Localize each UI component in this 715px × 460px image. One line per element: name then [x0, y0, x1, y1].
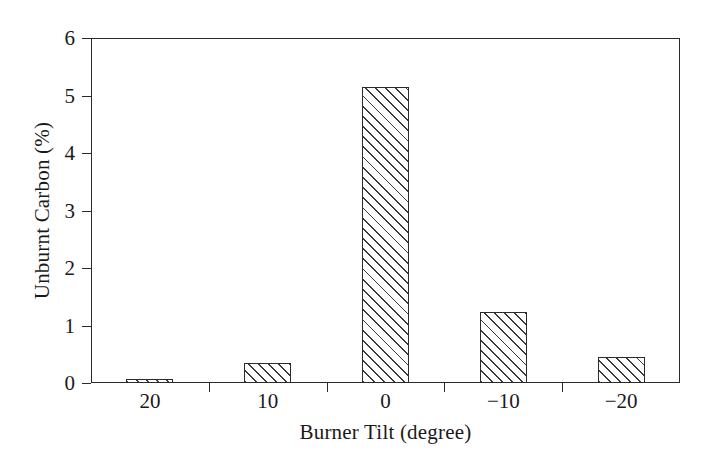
y-tick-label-0: 0	[15, 373, 75, 394]
y-tick-label-6: 6	[15, 28, 75, 49]
x-tick-label-minus-10: −10	[458, 391, 548, 412]
bar-20	[126, 379, 173, 383]
x-tick-3	[444, 383, 445, 392]
x-tick-label-minus-20: −20	[576, 391, 666, 412]
y-tick-4	[82, 153, 91, 154]
bar-0	[362, 87, 409, 383]
chart-figure: Unburnt Carbon (%) 0 1 2 3 4 5 6 20 10 0…	[0, 0, 715, 460]
y-tick-5	[82, 96, 91, 97]
bar-minus-20	[598, 357, 645, 383]
x-tick-4	[562, 383, 563, 392]
bar-10	[244, 363, 291, 383]
y-tick-1	[82, 326, 91, 327]
x-tick-2	[327, 383, 328, 392]
y-tick-0	[82, 383, 91, 384]
x-tick-label-0: 0	[341, 391, 431, 412]
y-tick-label-3: 3	[15, 201, 75, 222]
y-tick-label-1: 1	[15, 316, 75, 337]
y-tick-label-2: 2	[15, 258, 75, 279]
x-tick-label-10: 10	[223, 391, 313, 412]
x-tick-1	[209, 383, 210, 392]
bar-minus-10	[480, 312, 527, 383]
x-tick-label-20: 20	[105, 391, 195, 412]
x-axis-title: Burner Tilt (degree)	[91, 420, 680, 445]
y-tick-6	[82, 38, 91, 39]
y-tick-label-5: 5	[15, 86, 75, 107]
y-tick-2	[82, 268, 91, 269]
y-tick-label-4: 4	[15, 143, 75, 164]
y-tick-3	[82, 211, 91, 212]
